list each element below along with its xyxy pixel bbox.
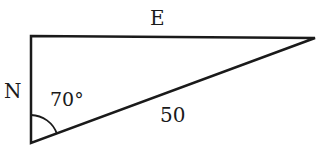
label-angle: 70° [50,88,84,110]
angle-arc [31,115,57,134]
label-top-side: E [150,6,165,30]
label-hypotenuse: 50 [160,103,185,127]
triangle-diagram: E N 70° 50 [0,0,319,158]
label-left-side: N [4,79,22,103]
